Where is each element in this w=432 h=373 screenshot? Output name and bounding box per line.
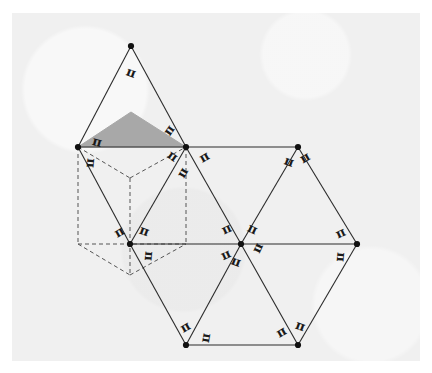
vertex-upper-right[interactable] xyxy=(295,144,301,150)
dashed-cube-edge xyxy=(78,244,130,275)
angle-label-pi: π xyxy=(197,328,216,349)
geometry-canvas xyxy=(0,0,432,373)
angle-label-pi: π xyxy=(139,246,157,265)
vertex-left[interactable] xyxy=(75,144,81,150)
vertex-bottom-right[interactable] xyxy=(295,342,301,348)
angle-label-pi: π xyxy=(331,247,349,266)
vertex-top-apex[interactable] xyxy=(128,43,134,49)
angle-label-pi: π xyxy=(81,153,99,172)
vertex-far-right[interactable] xyxy=(354,241,360,247)
vertex-lower-left[interactable] xyxy=(127,241,133,247)
vertex-bottom-left[interactable] xyxy=(183,342,189,348)
vertex-upper-middle[interactable] xyxy=(183,144,189,150)
diagram-root: πππππππππππππππππππππππ xyxy=(0,0,432,373)
vertex-center[interactable] xyxy=(238,241,244,247)
